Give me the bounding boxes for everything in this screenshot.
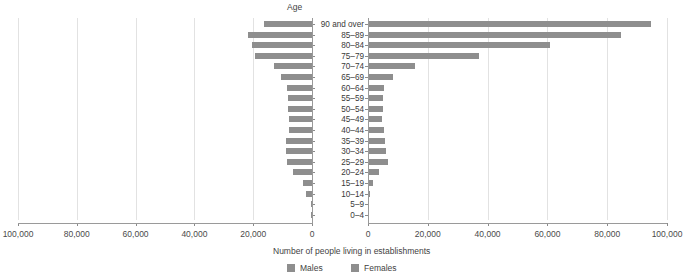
gridline xyxy=(194,18,195,220)
gridline xyxy=(253,18,254,220)
gridline xyxy=(607,18,608,220)
right-axis-tick-label: 100,000 xyxy=(652,229,683,239)
bar-females xyxy=(368,127,384,133)
left-y-axis-line xyxy=(312,18,313,223)
bar-females xyxy=(368,95,383,101)
gridline xyxy=(667,18,668,220)
gridline xyxy=(77,18,78,220)
right-axis-tick-label: 20,000 xyxy=(415,229,441,239)
x-axis-title: Number of people living in establishment… xyxy=(273,246,430,256)
right-axis-tick-label: 80,000 xyxy=(594,229,620,239)
legend-swatch-males xyxy=(287,264,295,272)
bar-males xyxy=(248,32,312,38)
legend-swatch-females xyxy=(351,264,359,272)
bar-females xyxy=(368,42,550,48)
bar-females xyxy=(368,148,386,154)
gridline xyxy=(428,18,429,220)
bar-males xyxy=(252,42,312,48)
bar-females xyxy=(368,53,479,59)
gridline xyxy=(18,18,19,220)
bar-females xyxy=(368,159,388,165)
left-axis-tick-label: 20,000 xyxy=(240,229,266,239)
legend-label-males: Males xyxy=(300,263,323,273)
bar-females xyxy=(368,85,384,91)
gridline xyxy=(136,18,137,220)
bar-females xyxy=(368,138,385,144)
age-axis-title: Age xyxy=(287,2,302,12)
left-axis-tick-label: 0 xyxy=(310,229,315,239)
gridline xyxy=(488,18,489,220)
bar-females xyxy=(368,32,621,38)
left-x-axis-line xyxy=(18,223,313,224)
bar-females xyxy=(368,106,383,112)
left-axis-tick-label: 100,000 xyxy=(3,229,34,239)
right-y-axis-line xyxy=(368,18,369,223)
population-pyramid-chart: Age 90 and over85–8980–8475–7970–7465–69… xyxy=(0,0,686,279)
right-axis-tick-label: 40,000 xyxy=(475,229,501,239)
bar-females xyxy=(368,63,415,69)
left-axis-tick-label: 40,000 xyxy=(181,229,207,239)
left-axis-tick-label: 80,000 xyxy=(64,229,90,239)
bar-females xyxy=(368,21,651,27)
bar-females xyxy=(368,74,393,80)
bar-females xyxy=(368,116,382,122)
right-axis-tick-label: 0 xyxy=(366,229,371,239)
right-axis-tick-label: 60,000 xyxy=(534,229,560,239)
right-x-axis-line xyxy=(368,223,667,224)
legend-label-females: Females xyxy=(364,263,397,273)
left-axis-tick-label: 60,000 xyxy=(123,229,149,239)
axis-tick-mark xyxy=(667,223,668,226)
gridline xyxy=(547,18,548,220)
bar-females xyxy=(368,169,379,175)
